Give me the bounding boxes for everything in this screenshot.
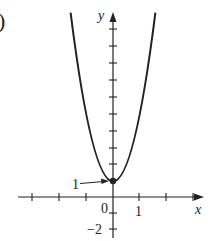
vertex-point [110,178,116,184]
x-axis-arrow-icon [194,194,204,201]
y-axis-arrow-icon [110,12,117,22]
panel-label: ) [0,8,5,33]
annotation-label: 1 [72,177,79,192]
annotation-arrow [80,182,104,184]
parabola-graph: ) 1 y x 0 1 −2 [0,0,210,241]
origin-label: 0 [101,201,108,216]
y-tick-label-neg2: −2 [87,222,102,237]
x-tick-label-1: 1 [135,204,142,219]
x-axis-label: x [194,202,202,217]
y-axis-label: y [96,8,105,23]
